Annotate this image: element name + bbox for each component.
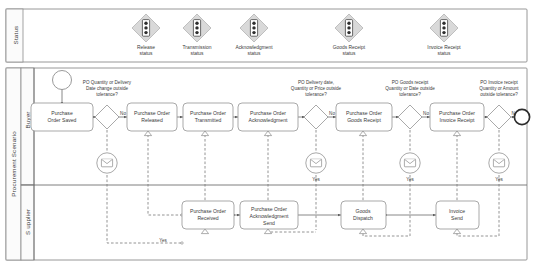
task-label-line2: Transmitted [195,117,222,123]
task-label-line2: Dispatch [353,215,373,221]
status-label-line2: status [342,51,356,56]
task-po-transmitted[interactable]: Purchase Order Transmitted [183,103,233,136]
start-event[interactable] [53,71,72,90]
task-po-ack-send[interactable]: Purchase Order Acknowledgment Send [240,201,298,234]
status-label-line2: status [190,51,204,56]
task-label-line2: Acknowledgment [250,213,289,219]
task-po-acknowledgment[interactable]: Purchase Order Acknowledgment [238,103,298,136]
message-event-po-change[interactable] [97,153,117,173]
task-label-line1: Purchase Order [134,110,170,116]
gateway-question-line1: PO Delivery date, [298,80,334,85]
task-label-line1: Purchase Order [251,206,287,212]
gateway-question-line3: outside tolerance? [480,92,518,97]
task-po-released[interactable]: Purchase Order Released [127,103,177,136]
task-label-line2: Released [141,117,163,123]
task-label-line2: Order Saved [48,117,77,123]
task-label-line2: Invoice Receipt [440,117,475,123]
task-label-line1: Purchase Order [250,110,286,116]
task-goods-dispatch[interactable]: Goods Dispatch [341,201,386,234]
task-label-line2: Send [451,215,463,221]
pool-label: Procurement Scenario [10,131,17,197]
gateway-question-line1: PO Invoice receipt [480,80,518,85]
task-po-received[interactable]: Purchase Order Received [182,201,234,234]
task-label-line2: Goods Receipt [347,117,381,123]
task-invoice-send[interactable]: Invoice Send [436,201,479,234]
task-label-line3: Send [263,220,275,226]
gateway-no-label: No [329,111,335,116]
gateway-question-line3: tolerance? [305,92,327,97]
status-lane-label: Status [12,26,19,45]
message-event-label: Yes [406,177,414,182]
gateway-question-line2: Quantity or Date outside [385,86,435,91]
status-label-line1: Release [137,45,155,50]
gateway-question-line1: PO Quantity or Delivery [83,80,132,85]
task-label-line1: Purchase Order [190,110,226,116]
gateway-question-line2: Date change outside [86,86,129,91]
task-po-saved[interactable]: Purchase Order Saved [31,103,93,131]
task-label-line2: Received [197,215,218,221]
gateway-question-line1: PO Goods receipt [392,80,429,85]
message-event-label: Yes [495,177,503,182]
task-label-line2: Acknowledgment [249,117,288,123]
gateway-question-line2: Quantity or Price outside [291,86,342,91]
lane-label-supplier: S upplier [24,209,31,235]
gateway-question-line3: tolerance? [96,92,118,97]
gateway-question-line2: Quantity or Amount [479,86,519,91]
task-label-line1: Purchase [51,110,73,116]
status-label-line1: Invoice Receipt [427,45,461,50]
status-label-line1: Transmission [183,45,212,50]
lane-label-buyer: Buyer [24,111,31,128]
task-label-line1: Purchase Order [439,110,475,116]
bpmn-diagram-canvas: Status Release status Transmission statu… [0,0,533,267]
task-label-line1: Invoice [449,208,465,214]
task-po-invoice-receipt[interactable]: Purchase Order Invoice Receipt [430,103,484,136]
diagram-svg: Status Release status Transmission statu… [0,0,533,267]
gateway-no-label: No [120,111,126,116]
task-po-goods-receipt[interactable]: Purchase Order Goods Receipt [336,103,392,136]
status-label-line2: status [247,51,261,56]
gateway-no-label: No [423,111,429,116]
task-label-line1: Purchase Order [346,110,382,116]
status-label-line2: status [139,51,153,56]
status-label-line1: Acknowledgment [235,45,273,50]
status-label-line1: Goods Receipt [333,45,366,50]
task-label-line1: Goods [355,208,370,214]
gateway-question-line3: tolerance? [399,92,421,97]
status-label-line2: status [437,51,451,56]
flow-label-yes-return: Yes [159,238,167,243]
end-event[interactable] [514,109,529,124]
message-event-label: Yes [312,177,320,182]
task-label-line1: Purchase Order [190,208,226,214]
